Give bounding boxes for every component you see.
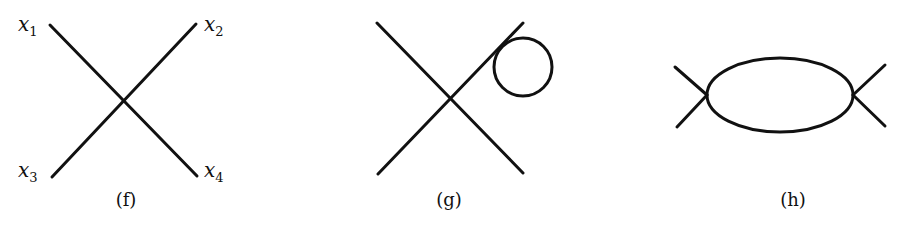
caption-g: (g) <box>436 189 462 210</box>
diagram-h-bubble <box>675 58 885 132</box>
label-x2: x2 <box>204 12 224 39</box>
feynman-diagrams-figure: x1 x2 x3 x4 (f) (g) (h) <box>0 0 901 228</box>
label-x3: x3 <box>18 158 38 185</box>
diagram-f-vertex <box>50 24 197 177</box>
label-x4: x4 <box>204 158 224 185</box>
caption-h: (h) <box>780 189 806 210</box>
diagram-canvas: x1 x2 x3 x4 (f) (g) (h) <box>0 0 901 228</box>
diagram-g-tadpole <box>377 23 552 174</box>
caption-f: (f) <box>116 189 137 210</box>
label-x1: x1 <box>18 12 38 39</box>
